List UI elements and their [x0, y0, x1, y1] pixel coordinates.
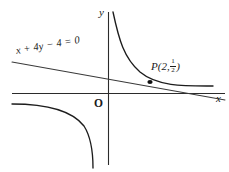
point-y-fraction: 1 2	[170, 58, 176, 74]
origin-label: O	[94, 98, 103, 110]
math-figure-canvas: y x O x + 4y − 4 = 0 P(2, 1 2 )	[0, 0, 229, 172]
hyperbola-branch-lower	[12, 104, 93, 168]
tangent-line-curve	[12, 62, 225, 100]
point-close-paren: )	[176, 61, 180, 72]
fraction-numerator: 1	[170, 58, 176, 65]
y-axis-label: y	[99, 7, 104, 18]
point-p-name: P	[151, 61, 158, 72]
figure-svg	[0, 0, 229, 172]
x-axis-label: x	[216, 93, 221, 104]
point-p-label: P(2, 1 2 )	[151, 58, 180, 74]
point-p-marker	[147, 80, 152, 84]
hyperbola-branch-upper	[113, 12, 213, 86]
fraction-denominator: 2	[170, 67, 176, 74]
